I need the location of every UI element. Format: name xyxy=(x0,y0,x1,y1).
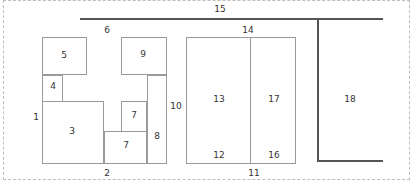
label-4: 4 xyxy=(50,81,56,91)
label-13: 13 xyxy=(213,94,224,104)
label-10: 10 xyxy=(170,101,181,111)
label-3: 3 xyxy=(69,126,75,136)
label-14: 14 xyxy=(242,25,253,35)
label-2: 2 xyxy=(104,168,110,178)
label-5: 5 xyxy=(61,50,67,60)
label-9: 9 xyxy=(140,49,146,59)
label-7-upper: 7 xyxy=(131,110,137,120)
label-8: 8 xyxy=(154,131,160,141)
label-11: 11 xyxy=(248,168,259,178)
label-16: 16 xyxy=(268,150,279,160)
label-12: 12 xyxy=(213,150,224,160)
line-15 xyxy=(80,18,383,20)
label-15: 15 xyxy=(214,4,225,14)
line-18-bottom xyxy=(317,160,383,162)
label-1: 1 xyxy=(33,112,39,122)
label-6: 6 xyxy=(104,25,110,35)
label-7-lower: 7 xyxy=(123,140,129,150)
label-18: 18 xyxy=(344,94,355,104)
label-17: 17 xyxy=(268,94,279,104)
region-8 xyxy=(147,75,167,164)
line-18-vertical xyxy=(317,18,319,162)
